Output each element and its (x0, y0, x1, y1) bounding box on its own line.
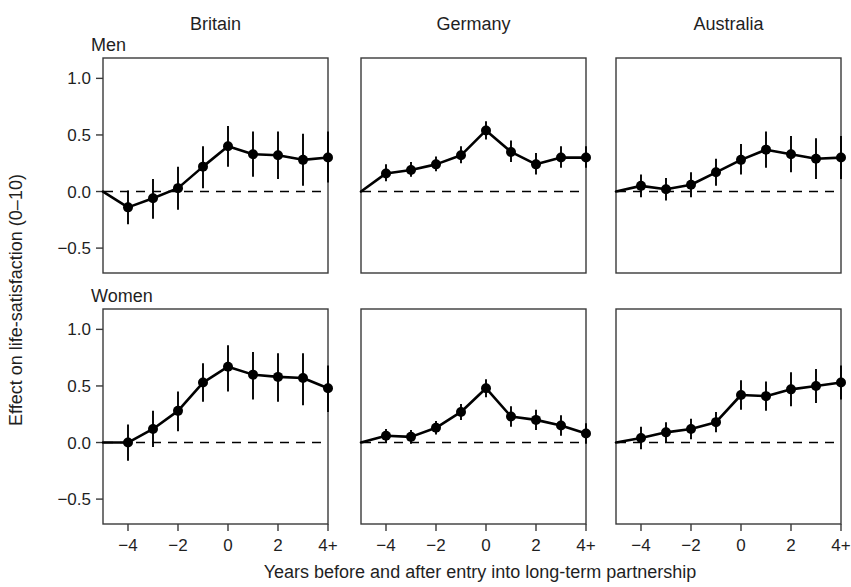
data-point-women-australia-1 (636, 433, 646, 443)
data-point-men-germany-4 (456, 150, 466, 160)
data-point-men-germany-5 (481, 125, 491, 135)
data-point-men-australia-3 (686, 180, 696, 190)
data-point-women-germany-7 (531, 415, 541, 425)
y-tick-label-women-britain-2: 0.0 (67, 434, 91, 453)
x-tick-label-women-britain-3: 2 (273, 536, 282, 555)
data-point-men-australia-4 (711, 167, 721, 177)
data-point-women-britain-8 (298, 373, 308, 383)
x-tick-label-women-britain-4: 4+ (318, 536, 337, 555)
y-tick-label-men-britain-1: 0.5 (67, 126, 91, 145)
panel-title-britain: Britain (190, 14, 241, 34)
data-point-men-britain-6 (248, 149, 258, 159)
data-point-women-australia-3 (686, 424, 696, 434)
data-point-men-germany-3 (431, 159, 441, 169)
data-point-men-australia-5 (736, 155, 746, 165)
y-tick-label-women-britain-3: −0.5 (57, 490, 91, 509)
data-point-men-britain-1 (123, 202, 133, 212)
panel-frame-men-britain (103, 58, 328, 273)
panel-title-germany: Germany (436, 14, 510, 34)
data-point-men-australia-6 (761, 145, 771, 155)
data-point-women-germany-2 (406, 432, 416, 442)
x-tick-label-women-britain-1: −2 (168, 536, 187, 555)
data-point-men-australia-8 (811, 154, 821, 164)
data-point-men-britain-7 (273, 150, 283, 160)
y-tick-label-men-britain-3: −0.5 (57, 239, 91, 258)
data-point-men-australia-1 (636, 181, 646, 191)
data-point-women-australia-9 (836, 378, 846, 388)
y-tick-label-men-britain-2: 0.0 (67, 183, 91, 202)
data-point-women-australia-5 (736, 390, 746, 400)
panel-frame-women-australia (616, 309, 841, 524)
data-point-women-germany-1 (381, 431, 391, 441)
data-point-men-britain-5 (223, 141, 233, 151)
x-tick-label-women-germany-3: 2 (531, 536, 540, 555)
panel-title-australia: Australia (693, 14, 764, 34)
data-point-men-germany-6 (506, 147, 516, 157)
data-point-women-germany-4 (456, 407, 466, 417)
x-tick-label-women-australia-1: −2 (681, 536, 700, 555)
data-point-women-britain-7 (273, 372, 283, 382)
data-point-men-britain-8 (298, 155, 308, 165)
x-tick-label-women-australia-3: 2 (786, 536, 795, 555)
data-point-men-britain-4 (198, 162, 208, 172)
data-point-women-germany-3 (431, 423, 441, 433)
data-point-women-britain-1 (123, 438, 133, 448)
x-tick-label-women-germany-4: 4+ (576, 536, 595, 555)
figure-container: BritainGermanyAustraliaMenWomen1.00.50.0… (0, 0, 851, 587)
group-label-men: Men (91, 35, 126, 55)
data-point-women-germany-9 (581, 428, 591, 438)
data-point-women-australia-8 (811, 381, 821, 391)
panel-men-germany (361, 58, 591, 273)
x-tick-label-women-britain-0: −4 (118, 536, 137, 555)
data-point-women-britain-9 (323, 383, 333, 393)
panel-frame-men-germany (361, 58, 586, 273)
data-point-men-australia-7 (786, 149, 796, 159)
data-point-women-germany-5 (481, 383, 491, 393)
x-tick-label-women-germany-0: −4 (376, 536, 395, 555)
panel-women-australia: −4−2024+ (616, 309, 851, 555)
panel-frame-women-britain (103, 309, 328, 524)
y-tick-label-women-britain-1: 0.5 (67, 377, 91, 396)
data-point-women-britain-5 (223, 362, 233, 372)
x-tick-label-women-australia-2: 0 (736, 536, 745, 555)
data-point-men-germany-1 (381, 168, 391, 178)
data-point-men-australia-2 (661, 184, 671, 194)
data-point-women-britain-2 (148, 424, 158, 434)
data-point-men-britain-2 (148, 193, 158, 203)
panel-men-britain: 1.00.50.0−0.5 (57, 58, 333, 273)
x-tick-label-women-germany-2: 0 (481, 536, 490, 555)
x-axis-title: Years before and after entry into long-t… (264, 562, 697, 582)
data-point-women-britain-6 (248, 370, 258, 380)
panel-men-australia (616, 58, 846, 273)
data-point-women-britain-3 (173, 406, 183, 416)
data-point-women-britain-4 (198, 378, 208, 388)
x-tick-label-women-australia-4: 4+ (831, 536, 850, 555)
data-point-women-australia-2 (661, 427, 671, 437)
y-tick-label-men-britain-0: 1.0 (67, 69, 91, 88)
data-point-men-britain-3 (173, 183, 183, 193)
data-point-men-germany-8 (556, 153, 566, 163)
data-point-women-australia-7 (786, 384, 796, 394)
data-point-women-australia-6 (761, 391, 771, 401)
y-tick-label-women-britain-0: 1.0 (67, 320, 91, 339)
x-tick-label-women-britain-2: 0 (223, 536, 232, 555)
data-point-men-germany-9 (581, 153, 591, 163)
panel-frame-women-germany (361, 309, 586, 524)
data-point-women-australia-4 (711, 417, 721, 427)
y-axis-title: Effect on life-satisfaction (0–10) (6, 174, 26, 426)
data-point-men-germany-2 (406, 165, 416, 175)
data-point-men-australia-9 (836, 153, 846, 163)
data-point-women-germany-8 (556, 421, 566, 431)
x-tick-label-women-australia-0: −4 (631, 536, 650, 555)
panel-women-germany: −4−2024+ (361, 309, 596, 555)
data-point-men-germany-7 (531, 159, 541, 169)
data-point-men-britain-9 (323, 153, 333, 163)
group-label-women: Women (91, 286, 153, 306)
data-point-women-germany-6 (506, 412, 516, 422)
x-tick-label-women-germany-1: −2 (426, 536, 445, 555)
panel-women-britain: 1.00.50.0−0.5−4−2024+ (57, 309, 337, 555)
panel-chart-svg: BritainGermanyAustraliaMenWomen1.00.50.0… (0, 0, 851, 587)
